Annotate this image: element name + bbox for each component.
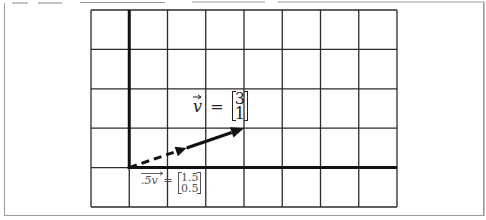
vector-v-matrix: 3 1 — [232, 91, 248, 121]
vector-arrow-icon — [141, 171, 165, 176]
vector-v-symbol: v — [193, 97, 202, 116]
vector-half-v-arrowhead-icon — [175, 147, 187, 156]
vector-half-v-shaft — [129, 151, 176, 167]
vector-half-v-symbol: .5v — [141, 174, 158, 187]
vector-v-shaft — [187, 132, 232, 147]
vector-half-v-matrix: 1.5 0.5 — [178, 172, 202, 194]
vector-v-arrowhead-icon — [230, 127, 244, 137]
vectors — [129, 127, 244, 167]
vector-arrow-icon — [193, 94, 203, 100]
vector-half-v-label: .5v = 1.5 0.5 — [141, 170, 201, 192]
top-border-fragments — [12, 2, 484, 216]
vector-v-label: v = 3 1 — [193, 92, 248, 122]
